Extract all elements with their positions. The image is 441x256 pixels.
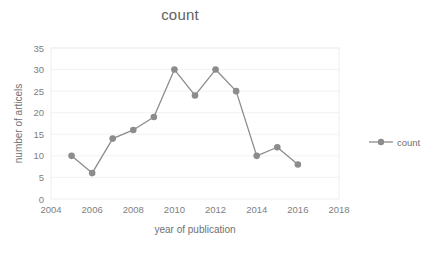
legend-label-count: count (397, 137, 420, 148)
y-tick-label: 15 (33, 129, 44, 140)
data-point (212, 66, 219, 73)
x-tick-label: 2012 (205, 204, 226, 215)
x-axis-tick-labels: 20042006200820102012201420162018 (40, 204, 349, 215)
data-point (171, 66, 178, 73)
series-line-count (72, 70, 298, 174)
y-tick-label: 25 (33, 86, 44, 97)
y-tick-label: 10 (33, 150, 44, 161)
plot-border (51, 48, 339, 199)
data-point (130, 127, 137, 134)
gridlines (51, 48, 339, 177)
legend-marker-icon (368, 136, 394, 148)
data-point (274, 144, 281, 151)
y-tick-label: 0 (39, 194, 44, 205)
y-tick-label: 5 (39, 172, 44, 183)
x-tick-label: 2010 (164, 204, 185, 215)
data-point (295, 161, 302, 168)
x-tick-label: 2004 (40, 204, 61, 215)
data-point (192, 92, 199, 99)
y-axis-title: number of articels (13, 84, 24, 163)
data-point (253, 153, 260, 160)
legend: count (368, 136, 420, 148)
x-tick-label: 2008 (123, 204, 144, 215)
x-tick-label: 2016 (287, 204, 308, 215)
x-tick-label: 2018 (328, 204, 349, 215)
y-tick-label: 30 (33, 64, 44, 75)
data-point (151, 114, 158, 121)
data-point (233, 88, 240, 95)
y-tick-label: 35 (33, 43, 44, 54)
plot-area: 05101520253035 2004200620082010201220142… (0, 0, 441, 256)
x-tick-label: 2014 (246, 204, 267, 215)
data-point (109, 135, 116, 142)
x-axis-title: year of publication (154, 224, 235, 235)
data-point (68, 153, 75, 160)
data-point (89, 170, 96, 177)
y-axis-tick-labels: 05101520253035 (33, 43, 44, 205)
x-tick-label: 2006 (82, 204, 103, 215)
chart-container: count 05101520253035 2004200620082010201… (0, 0, 441, 256)
y-tick-label: 20 (33, 107, 44, 118)
